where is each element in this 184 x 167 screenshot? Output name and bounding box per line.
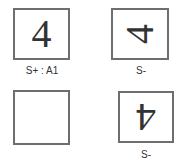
stimulus-box-2: 4: [111, 8, 169, 60]
digit-rotated-90: 4: [120, 24, 160, 44]
label-box-1: S+ : A1: [7, 65, 77, 76]
label-box-4: S-: [111, 149, 181, 160]
digit-upright: 4: [32, 14, 52, 54]
label-box-2: S-: [106, 65, 176, 76]
digit-rotated-180: 4: [136, 97, 156, 137]
stimulus-box-3-empty: [13, 90, 70, 145]
stimulus-box-1: 4: [13, 8, 70, 60]
stimulus-box-4: 4: [118, 91, 174, 143]
